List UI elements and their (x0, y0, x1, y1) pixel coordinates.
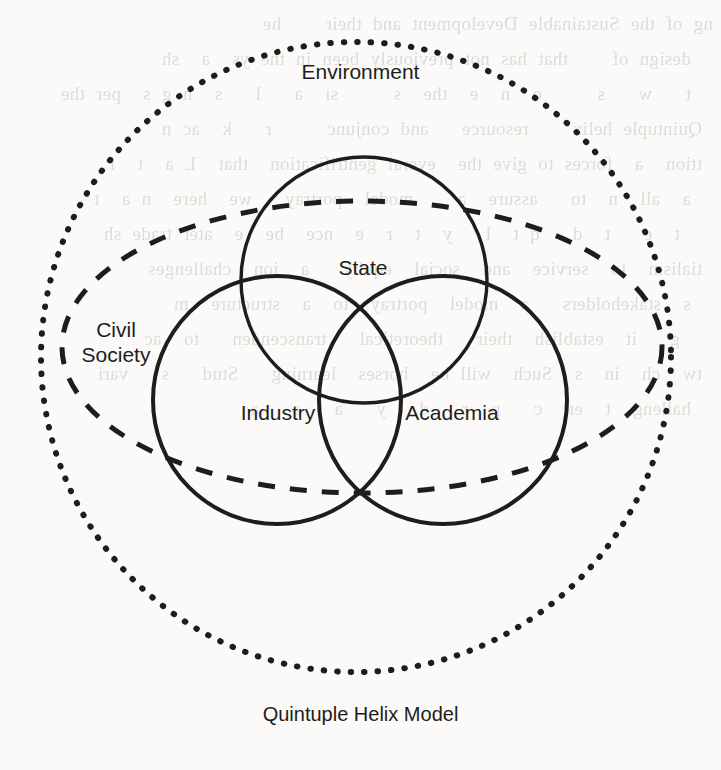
environment-label: Environment (0, 60, 721, 85)
quintuple-helix-diagram (0, 0, 721, 770)
state-label: State (303, 256, 423, 281)
academia-label: Academia (372, 401, 532, 426)
industry-circle (153, 276, 401, 524)
figure-caption: Quintuple Helix Model (0, 703, 721, 726)
scanned-page: ng of the Sustainable Development and th… (0, 0, 721, 770)
academia-circle (319, 276, 567, 524)
civil-society-label: Civil Society (56, 318, 176, 368)
industry-label: Industry (203, 401, 353, 426)
